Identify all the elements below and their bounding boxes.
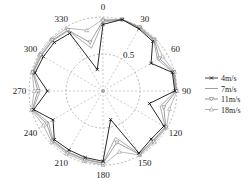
angle-tick-label: 300: [24, 44, 38, 54]
angle-tick-label: 120: [169, 128, 183, 138]
legend-item: 4m/s: [205, 74, 237, 83]
angle-tick-label: 90: [182, 86, 192, 96]
legend-item: 7m/s: [205, 85, 237, 94]
angle-tick-label: 210: [54, 158, 68, 168]
angle-tick-label: 180: [96, 170, 110, 180]
radial-tick-label: 0.5: [123, 50, 135, 60]
angle-tick-label: 60: [171, 44, 181, 54]
svg-text:4m/s: 4m/s: [221, 74, 237, 83]
angle-tick-label: 150: [138, 158, 152, 168]
angle-tick-label: 30: [140, 14, 150, 24]
angle-tick-label: 240: [24, 128, 38, 138]
svg-text:11m/s: 11m/s: [221, 95, 240, 104]
angle-tick-label: 330: [54, 14, 68, 24]
legend-item: 18m/s: [205, 106, 241, 115]
svg-text:18m/s: 18m/s: [221, 106, 241, 115]
legend: 4m/s7m/s11m/s18m/s: [205, 74, 241, 115]
svg-text:7m/s: 7m/s: [221, 85, 237, 94]
angle-tick-label: 270: [13, 86, 27, 96]
angle-tick-label: 0: [101, 2, 106, 12]
legend-item: 11m/s: [205, 95, 240, 104]
polar-chart: 0.5 0306090120150180210240270300330 4m/s…: [0, 0, 249, 182]
